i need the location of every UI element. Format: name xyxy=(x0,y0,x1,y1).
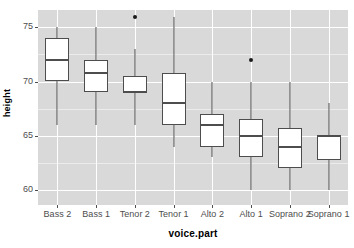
y-axis-tick-mark xyxy=(35,136,38,137)
boxplot-box-group xyxy=(154,10,193,205)
y-axis-tick-label: 65 xyxy=(11,131,33,140)
y-axis-tick-label: 60 xyxy=(11,185,33,194)
boxplot-figure: height voice.part 60657075Bass 2Bass 1Te… xyxy=(0,0,354,248)
plot-panel xyxy=(38,10,348,205)
x-axis-tick-mark xyxy=(329,205,330,208)
boxplot-median-line xyxy=(200,124,224,126)
boxplot-outlier-point xyxy=(249,58,253,62)
x-axis-tick-label: Alto 2 xyxy=(201,210,224,219)
y-axis-tick-label: 70 xyxy=(11,77,33,86)
x-axis-tick-label: Soprano 1 xyxy=(308,210,350,219)
boxplot-iqr-box xyxy=(239,119,263,157)
x-axis-tick-label: Alto 1 xyxy=(240,210,263,219)
y-axis-tick-label: 75 xyxy=(11,22,33,31)
boxplot-box-group xyxy=(309,10,348,205)
boxplot-median-line xyxy=(84,72,108,74)
y-axis-tick-mark xyxy=(35,27,38,28)
boxplot-median-line xyxy=(123,91,147,93)
x-axis-tick-mark xyxy=(135,205,136,208)
x-axis-tick-label: Bass 2 xyxy=(44,210,72,219)
boxplot-box-group xyxy=(77,10,116,205)
y-axis-title-label: height xyxy=(2,88,12,116)
boxplot-median-line xyxy=(239,135,263,137)
boxplot-median-line xyxy=(45,59,69,61)
x-axis-tick-mark xyxy=(251,205,252,208)
x-axis-tick-mark xyxy=(96,205,97,208)
y-axis-tick-mark xyxy=(35,82,38,83)
x-axis-tick-mark xyxy=(212,205,213,208)
y-axis-tick-mark xyxy=(35,190,38,191)
boxplot-median-line xyxy=(278,146,302,148)
boxplot-box-group xyxy=(116,10,155,205)
x-axis-title: voice.part xyxy=(38,228,348,239)
x-axis-tick-label: Tenor 1 xyxy=(159,210,189,219)
x-axis-tick-label: Soprano 2 xyxy=(269,210,311,219)
boxplot-box-group xyxy=(38,10,77,205)
boxplot-outlier-point xyxy=(133,15,137,19)
boxplot-iqr-box xyxy=(84,60,108,93)
boxplot-iqr-box xyxy=(317,136,341,160)
boxplot-iqr-box xyxy=(162,73,186,124)
boxplot-median-line xyxy=(317,135,341,137)
x-axis-tick-mark xyxy=(174,205,175,208)
boxplot-box-group xyxy=(232,10,271,205)
x-axis-tick-label: Bass 1 xyxy=(82,210,110,219)
x-axis-tick-mark xyxy=(290,205,291,208)
boxplot-box-group xyxy=(193,10,232,205)
x-axis-tick-label: Tenor 2 xyxy=(120,210,150,219)
boxplot-iqr-box xyxy=(278,128,302,169)
boxplot-box-group xyxy=(271,10,310,205)
boxplot-iqr-box xyxy=(200,114,224,147)
boxplot-iqr-box xyxy=(123,76,147,92)
x-axis-tick-mark xyxy=(57,205,58,208)
boxplot-median-line xyxy=(162,102,186,104)
